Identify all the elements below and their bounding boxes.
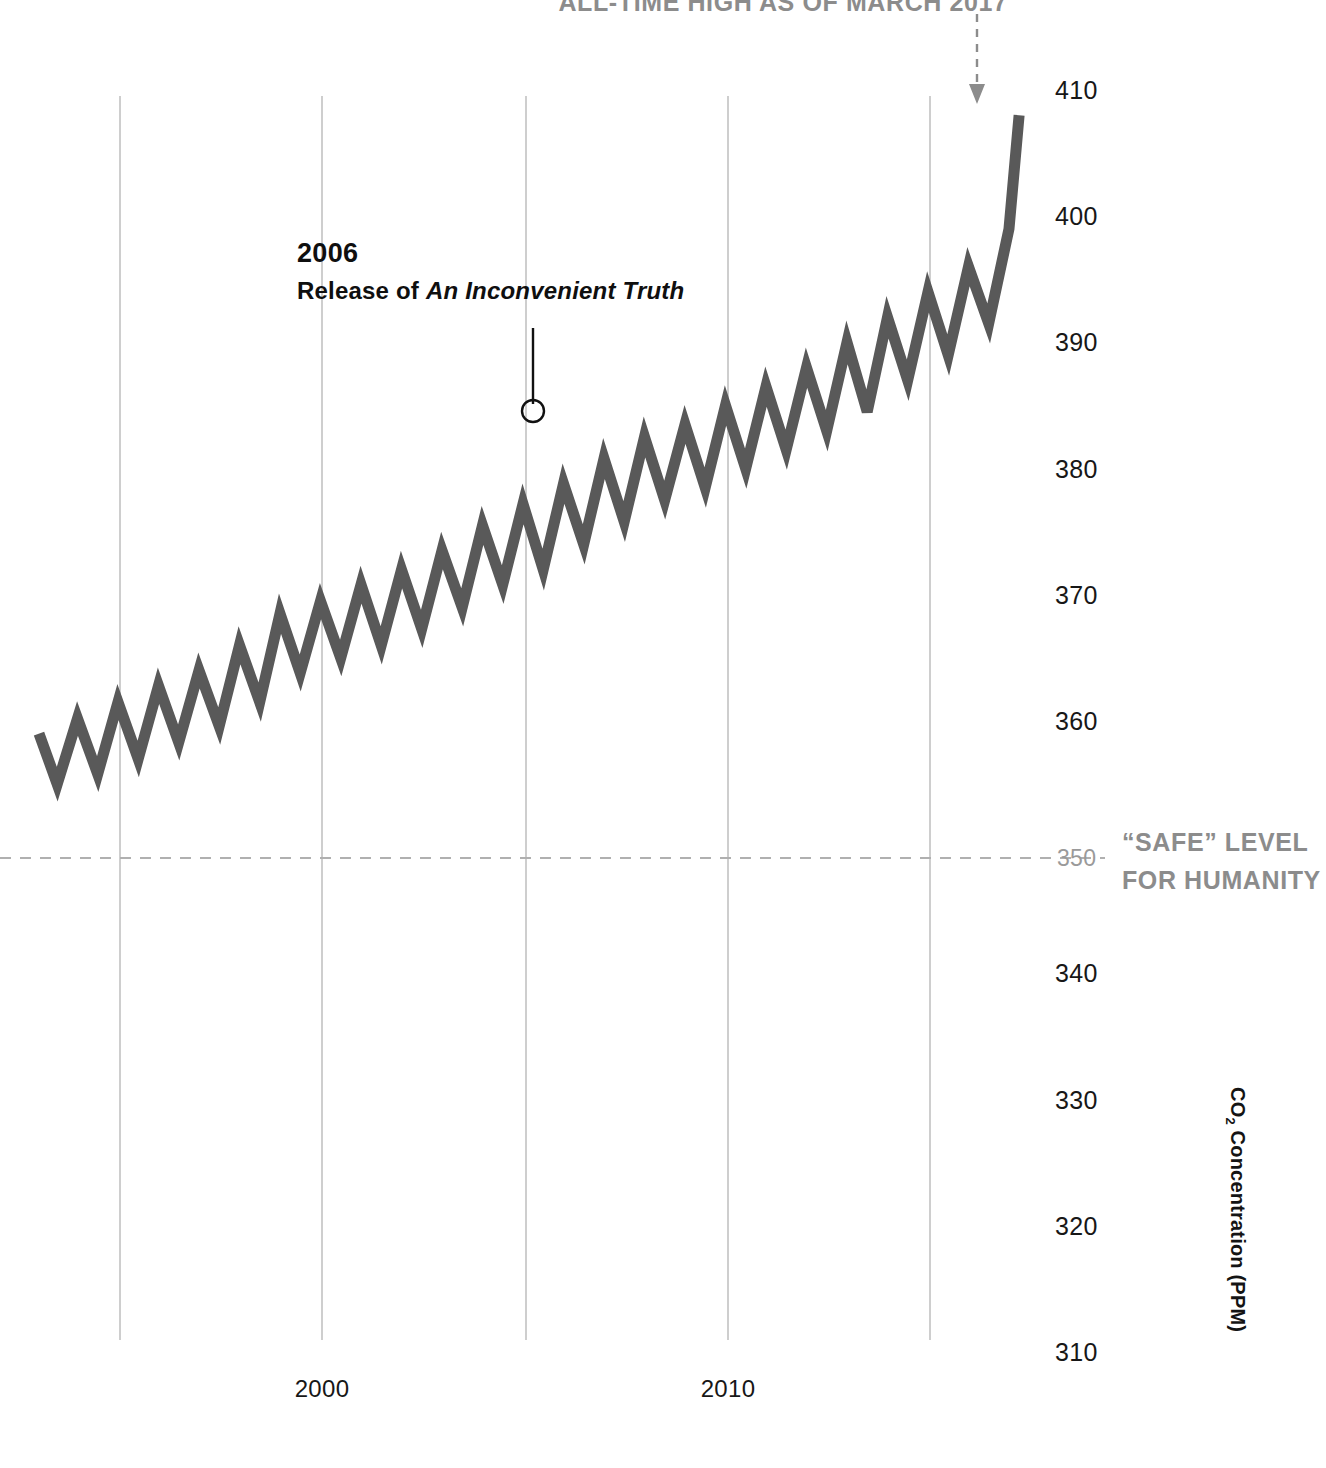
xtick-2000: 2000 xyxy=(272,1375,372,1403)
ytick-330: 330 xyxy=(1055,1086,1098,1115)
ytick-380: 380 xyxy=(1055,455,1098,484)
event-annotation-year: 2006 xyxy=(297,238,684,269)
all-time-high-arrow-head xyxy=(969,84,985,104)
ytick-320: 320 xyxy=(1055,1212,1098,1241)
safe-level-label-line1: “SAFE” LEVEL xyxy=(1122,823,1321,861)
y-axis-title-subscript: 2 xyxy=(1223,1117,1238,1124)
event-annotation-desc-title: An Inconvenient Truth xyxy=(426,277,684,304)
event-annotation-desc-prefix: Release of xyxy=(297,277,426,304)
ytick-400: 400 xyxy=(1055,202,1098,231)
y-axis-title-co: CO xyxy=(1227,1087,1249,1117)
y-axis-title: CO2 Concentration (PPM) xyxy=(1223,1087,1249,1332)
y-axis-title-rest: Concentration (PPM) xyxy=(1227,1125,1249,1332)
plot-area xyxy=(0,0,1326,1468)
event-annotation-2006: 2006 Release of An Inconvenient Truth xyxy=(297,238,684,305)
ytick-360: 360 xyxy=(1055,707,1098,736)
xtick-2010: 2010 xyxy=(678,1375,778,1403)
ytick-390: 390 xyxy=(1055,328,1098,357)
event-annotation-desc: Release of An Inconvenient Truth xyxy=(297,277,684,305)
co2-chart: ALL-TIME HIGH AS OF MARCH 2017 410 400 3… xyxy=(0,0,1326,1468)
safe-level-label: “SAFE” LEVEL FOR HUMANITY xyxy=(1122,823,1321,899)
co2-curve xyxy=(39,115,1019,784)
ytick-340: 340 xyxy=(1055,959,1098,988)
ytick-370: 370 xyxy=(1055,581,1098,610)
ytick-310: 310 xyxy=(1055,1338,1098,1367)
safe-level-label-line2: FOR HUMANITY xyxy=(1122,861,1321,899)
ytick-350: 350 xyxy=(1057,845,1096,872)
ytick-410: 410 xyxy=(1055,76,1098,105)
